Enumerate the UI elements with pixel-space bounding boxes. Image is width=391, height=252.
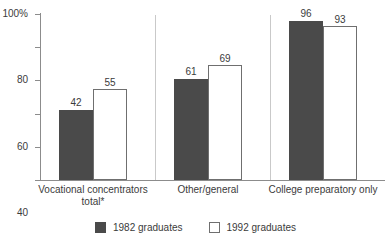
y-axis-tick: 20 — [35, 147, 40, 148]
bar-value-label: 96 — [300, 8, 311, 19]
filled-dark-square-icon — [95, 222, 106, 233]
y-axis-tick-label: 80 — [17, 75, 28, 85]
x-axis-category-label-line: College preparatory only — [248, 184, 391, 196]
legend-item-1982: 1982 graduates — [95, 222, 183, 233]
bar-1992-group-0: 55 — [93, 89, 127, 180]
bar-1982-group-0: 42 — [59, 110, 93, 180]
legend-label-1982: 1982 graduates — [113, 222, 183, 233]
x-axis-category-label: College preparatory only — [248, 184, 391, 196]
bar-value-label: 69 — [219, 53, 230, 64]
bar-1982-group-1: 61 — [174, 79, 208, 180]
chart-legend: 1982 graduates 1992 graduates — [0, 222, 391, 233]
y-axis-tick: 100% — [35, 14, 40, 15]
bar-1992-group-1: 69 — [208, 65, 242, 180]
plot-area: 020406080100%426196556993 — [40, 14, 385, 180]
bar-value-label: 42 — [70, 97, 81, 108]
y-axis-tick-label: 100% — [2, 9, 28, 19]
bar-value-label: 93 — [334, 14, 345, 25]
x-axis-line — [40, 180, 385, 181]
bar-1992-group-2: 93 — [323, 26, 357, 180]
footnote-cutoff — [8, 246, 308, 252]
y-axis-tick: 40 — [35, 114, 40, 115]
bar-1982-group-2: 96 — [289, 21, 323, 180]
bar-value-label: 55 — [104, 77, 115, 88]
group-separator — [270, 15, 271, 180]
y-axis-tick: 0 — [35, 180, 40, 181]
y-axis-tick: 80 — [35, 47, 40, 48]
y-axis-tick-label: 40 — [17, 208, 28, 218]
outlined-white-square-icon — [209, 222, 220, 233]
bar-chart: 020406080100%426196556993 1982 graduates… — [0, 0, 391, 252]
y-axis-tick-label: 60 — [17, 142, 28, 152]
bar-value-label: 61 — [185, 66, 196, 77]
x-axis-category-label-line: total* — [18, 196, 168, 208]
y-axis-tick: 60 — [35, 80, 40, 81]
legend-item-1992: 1992 graduates — [209, 222, 297, 233]
legend-label-1992: 1992 graduates — [227, 222, 297, 233]
group-separator — [155, 15, 156, 180]
